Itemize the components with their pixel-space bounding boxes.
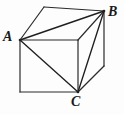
triangle-side-ca [20, 40, 78, 92]
vertex-label-b: B [108, 5, 117, 19]
vertex-label-c: C [71, 95, 80, 109]
triangle-side-bc [78, 11, 104, 92]
cube-diagram-svg [0, 0, 124, 114]
vertex-marker-c [77, 91, 80, 94]
edge-top-face-back-left [20, 7, 44, 40]
edge-top-face-back [44, 7, 104, 11]
vertex-marker-a [19, 39, 22, 42]
cube-geometry-figure: A B C [0, 0, 124, 114]
vertex-markers [19, 10, 106, 94]
vertex-marker-b [103, 10, 106, 13]
vertex-label-a: A [3, 30, 12, 44]
